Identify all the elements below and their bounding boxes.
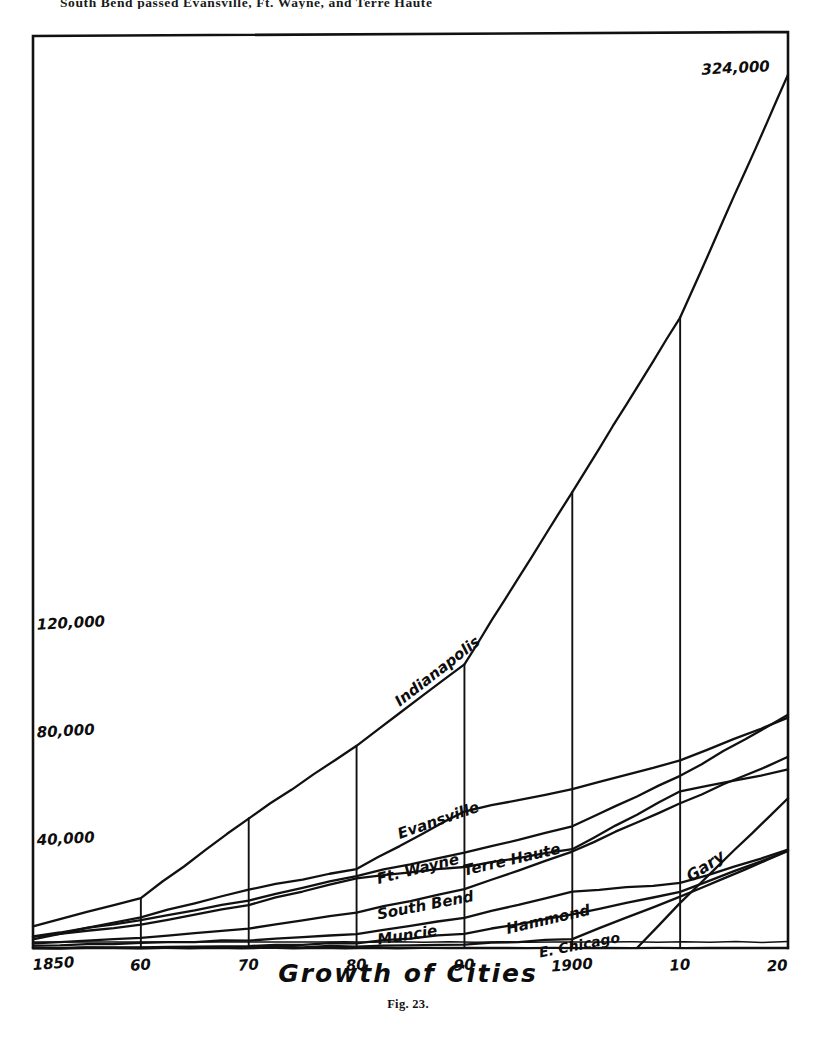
y-axis-tick-labels: 40,00080,000120,000: [35, 612, 105, 849]
x-tick-label-1900: 1900: [550, 955, 593, 976]
series-lines: [33, 75, 788, 949]
series-label-indianapolis: Indianapolis: [391, 632, 484, 710]
figure-growth-of-cities: IndianapolisEvansvilleFt. WayneTerre Hau…: [0, 0, 816, 1037]
figure-caption: Fig. 23.: [0, 997, 816, 1012]
chart-canvas: IndianapolisEvansvilleFt. WayneTerre Hau…: [0, 0, 816, 1037]
series-labels: IndianapolisEvansvilleFt. WayneTerre Hau…: [375, 632, 729, 960]
series-label-hammond: Hammond: [504, 901, 592, 938]
chart-title: Growth of Cities: [278, 959, 538, 988]
x-tick-label-70: 70: [237, 955, 259, 974]
plot-frame: [33, 32, 788, 948]
chart-annotations: 324,000: [701, 57, 770, 79]
series-label-ft-wayne: Ft. Wayne: [375, 850, 461, 888]
y-tick-label-80000: 80,000: [36, 720, 95, 741]
x-tick-label-10: 10: [669, 955, 691, 974]
chart-title-text: Growth of Cities: [278, 959, 538, 988]
y-tick-label-120000: 120,000: [36, 612, 105, 634]
y-tick-label-40000: 40,000: [35, 828, 95, 849]
annotation-indianapolis-1920-population: 324,000: [701, 57, 770, 79]
series-label-evansville: Evansville: [395, 798, 481, 843]
x-tick-label-60: 60: [129, 955, 151, 974]
x-tick-label-20: 20: [766, 956, 788, 975]
x-tick-label-1850: 1850: [32, 953, 75, 974]
